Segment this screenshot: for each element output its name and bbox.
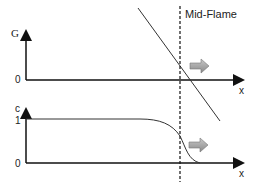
bottom-y-label: c: [15, 103, 20, 114]
top-x-label: x: [239, 85, 244, 96]
top-y-label: G: [11, 27, 19, 39]
flame-diagram: Mid-Flame G 0 x c 1 0 x: [0, 0, 258, 187]
bottom-x-label: x: [239, 168, 244, 179]
top-y-zero: 0: [15, 74, 21, 85]
bottom-direction-arrow-icon: [189, 138, 208, 152]
c-curve: [26, 119, 200, 163]
bottom-y-one: 1: [15, 115, 21, 126]
top-direction-arrow-icon: [190, 59, 209, 73]
diagram-canvas: [0, 0, 258, 187]
bottom-y-zero: 0: [15, 158, 21, 169]
mid-flame-label: Mid-Flame: [185, 8, 237, 20]
